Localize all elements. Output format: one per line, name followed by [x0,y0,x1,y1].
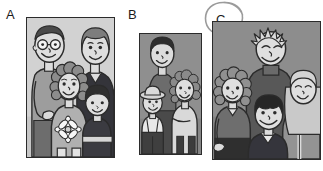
family-photo-b[interactable] [139,33,202,155]
family-photo-a-artwork [27,18,114,157]
option-letter-b[interactable]: B [128,8,137,21]
family-photo-c-artwork [213,22,320,159]
family-photo-a[interactable] [26,17,115,158]
family-photo-b-artwork [140,34,201,154]
option-letter-a[interactable]: A [6,8,15,21]
illustration-canvas: A [0,0,323,171]
family-photo-c[interactable] [212,21,321,160]
